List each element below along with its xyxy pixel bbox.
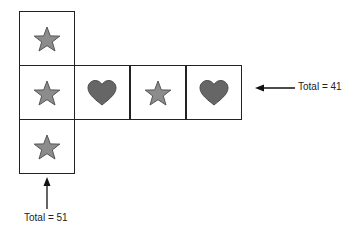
cell-r2-c4 — [186, 65, 242, 120]
cell-r2-c1 — [19, 65, 75, 120]
cell-r2-c2 — [74, 65, 130, 120]
column-total-label: Total = 51 — [24, 212, 68, 223]
heart-icon — [198, 79, 230, 107]
star-icon — [33, 133, 61, 160]
cell-r3-c1 — [19, 119, 75, 174]
arrow-up-icon — [42, 176, 52, 209]
star-icon — [33, 25, 61, 52]
cell-r1-c1 — [19, 11, 75, 66]
star-icon — [144, 79, 172, 106]
cell-r2-c3 — [130, 65, 186, 120]
arrow-left-icon — [254, 83, 296, 93]
star-icon — [33, 79, 61, 106]
row-total-label: Total = 41 — [298, 81, 342, 92]
heart-icon — [86, 79, 118, 107]
